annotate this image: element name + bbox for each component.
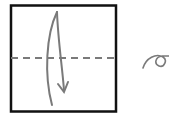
turn-over-icon [143, 56, 169, 68]
fold-diagram [0, 0, 169, 122]
